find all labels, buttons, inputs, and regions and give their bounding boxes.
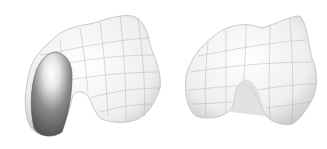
right-femur-model (185, 16, 316, 125)
left-femur-model (25, 16, 160, 136)
figure (0, 0, 327, 149)
femur-renderings (0, 0, 327, 149)
